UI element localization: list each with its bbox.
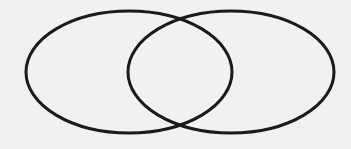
- venn-diagram-svg: [0, 0, 351, 149]
- venn-diagram: [0, 0, 351, 149]
